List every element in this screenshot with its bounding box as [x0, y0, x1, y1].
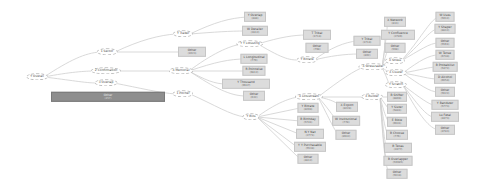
leaf-node[interactable]: Y Overlap(884): [244, 12, 266, 22]
tree-edge: [403, 73, 437, 79]
leaf-label: Other: [104, 93, 113, 97]
leaf-node[interactable]: Other(1023): [178, 47, 206, 57]
leaf-count: (6641): [390, 122, 404, 125]
leaf-count: (884): [247, 17, 263, 20]
leaf-node[interactable]: B Birthday(5741): [297, 116, 319, 126]
leaf-node[interactable]: Other(5634): [387, 169, 408, 179]
leaf-count: (5881): [390, 109, 404, 112]
tree-edge: [403, 67, 436, 73]
leaf-count: (56685): [387, 161, 410, 164]
leaf-label: Y Shaper: [438, 25, 451, 29]
leaf-count: (5741): [300, 121, 316, 124]
leaf-label: Other: [391, 44, 400, 48]
leaf-label: W Tense: [439, 51, 451, 55]
leaf-label: Y Bandster: [437, 101, 453, 105]
leaf-label: B Choose: [390, 131, 404, 135]
leaf-count: (798): [309, 48, 326, 51]
leaf-count: (4812): [301, 159, 316, 162]
leaf-count: (457): [54, 97, 162, 100]
leaf-label: R Pointwise: [245, 67, 262, 71]
tree-edge: [44, 52, 100, 77]
leaf-node[interactable]: R Pointwise(9812): [242, 66, 265, 76]
leaf-node[interactable]: Y Tribal(1714): [354, 36, 381, 46]
leaf-count: (6654): [437, 79, 453, 82]
leaf-label: B Texas: [392, 144, 403, 148]
leaf-label: W Derailer: [247, 27, 263, 31]
leaf-label: B Shifter: [391, 93, 404, 97]
leaf-count: (802): [359, 54, 375, 57]
leaf-count: (8804): [390, 97, 404, 100]
leaf-label: Other: [304, 155, 313, 159]
tree-edge: [318, 67, 364, 97]
leaf-node[interactable]: B Choose(776): [386, 130, 408, 140]
leaf-count: (5561): [439, 43, 452, 46]
leaf-label: X Network: [387, 18, 403, 22]
leaf-label: Y Tribal: [362, 37, 373, 41]
leaf-node[interactable]: Y Bitrate(8204): [298, 103, 319, 113]
leaf-node[interactable]: Y Thousand(9647): [222, 79, 270, 89]
leaf-node[interactable]: Other(8942): [336, 130, 357, 140]
leaf-node[interactable]: W Institutional(778): [332, 116, 360, 126]
leaf-node[interactable]: Y Bandster(5773): [432, 100, 459, 110]
leaf-label: Other: [363, 50, 372, 54]
leaf-node[interactable]: Other(632): [243, 91, 265, 101]
leaf-node[interactable]: N Y Nat(2771): [296, 129, 324, 139]
leaf-node[interactable]: Other(798): [306, 43, 329, 53]
leaf-label: Y Y Purchasable: [298, 143, 322, 147]
leaf-node[interactable]: Other(802): [356, 49, 378, 59]
leaf-node[interactable]: B Overlapper(56685): [384, 156, 413, 166]
leaf-node[interactable]: Y Y Purchasable(5538): [294, 142, 326, 152]
leaf-node[interactable]: T Tribal(1714): [303, 30, 331, 40]
leaf-label: E Bible: [392, 118, 402, 122]
leaf-count: (5012): [439, 17, 452, 20]
leaf-count: (776): [389, 135, 405, 138]
leaf-count: (5634): [390, 174, 405, 177]
leaf-node[interactable]: B Shifter(8804): [387, 92, 407, 102]
leaf-label: Other: [441, 39, 450, 43]
leaf-node[interactable]: X Export(8228): [336, 102, 358, 112]
tree-edge: [189, 71, 226, 84]
leaf-node[interactable]: B Texas(2477): [384, 143, 412, 153]
leaf-label: D Alcohol: [438, 75, 452, 79]
decision-tree-canvas: Y Overall 1 Sector2 Confirmation3 Overla…: [0, 0, 487, 189]
leaf-count: (1714): [357, 41, 378, 44]
leaf-node[interactable]: D Alcohol(6654): [434, 74, 456, 84]
leaf-node[interactable]: Other(457): [51, 92, 165, 102]
leaf-node[interactable]: Other(4812): [298, 154, 319, 164]
leaf-count: (5472): [436, 67, 455, 70]
leaf-node[interactable]: Y Shaper(8812): [435, 24, 456, 34]
leaf-count: (8228): [339, 107, 355, 110]
leaf-label: Other: [313, 44, 322, 48]
leaf-label: B Probabilist: [436, 63, 455, 67]
leaf-label: B Birthday: [300, 117, 316, 121]
tree-edge: [257, 117, 300, 121]
leaf-node[interactable]: W Derailer(2812): [242, 26, 268, 36]
leaf-node[interactable]: Other(5561): [436, 38, 455, 48]
leaf-node[interactable]: B Probabilist(5472): [433, 62, 458, 72]
leaf-node[interactable]: W Uses(5012): [436, 12, 455, 22]
leaf-label: Y Confluence: [388, 31, 408, 35]
leaf-label: Other: [441, 88, 450, 92]
leaf-node[interactable]: X Network(813): [384, 17, 406, 27]
tree-edge: [257, 117, 300, 159]
leaf-count: (5773): [435, 105, 456, 108]
leaf-node[interactable]: W Tense(6744): [436, 50, 455, 60]
leaf-count: (2771): [299, 134, 321, 137]
leaf-count: (6744): [439, 55, 452, 58]
leaf-node[interactable]: Other(568): [385, 43, 406, 53]
leaf-count: (568): [388, 48, 403, 51]
leaf-node[interactable]: Other(5622): [435, 87, 455, 97]
leaf-node[interactable]: L Longitudinal(779): [240, 54, 267, 64]
leaf-node[interactable]: Lu Fetal(4473): [431, 112, 459, 122]
leaf-label: X Export: [341, 103, 354, 107]
leaf-label: Other: [441, 126, 450, 130]
leaf-node[interactable]: E Bible(6641): [387, 117, 407, 127]
leaf-count: (2812): [245, 31, 265, 34]
leaf-node[interactable]: Other(4783): [435, 125, 455, 135]
leaf-count: (8204): [301, 108, 316, 111]
leaf-node[interactable]: Y Sister(5881): [387, 104, 407, 114]
leaf-count: (5622): [438, 92, 452, 95]
tree-edge: [115, 34, 176, 52]
leaf-count: (2477): [387, 148, 409, 151]
leaf-node[interactable]: Y Confluence(2789): [381, 30, 415, 40]
